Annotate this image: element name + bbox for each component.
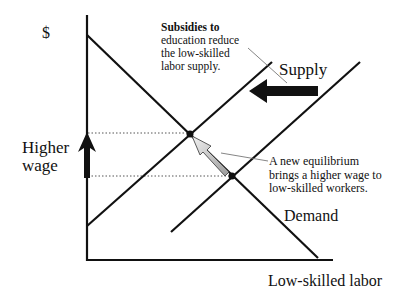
demand-label: Demand	[284, 208, 338, 224]
subsidies-note-line-1: Subsidies to	[161, 21, 239, 34]
original-equilibrium-point	[229, 173, 236, 180]
equilibrium-note-line-2: brings a higher wage to	[269, 169, 382, 183]
equilibrium-note-line-3: low-skilled workers.	[269, 182, 382, 196]
equilibrium-note: A new equilibrium brings a higher wage t…	[269, 155, 382, 196]
higher-wage-line-1: Higher	[22, 139, 69, 157]
equilibrium-leader-line	[221, 153, 268, 161]
equilibrium-note-line-1: A new equilibrium	[269, 155, 382, 169]
higher-wage-arrow-icon	[78, 132, 96, 178]
subsidies-note: Subsidies to education reduce the low-sk…	[161, 21, 239, 73]
supply-curve-new	[87, 62, 272, 226]
supply-label: Supply	[279, 61, 327, 78]
higher-wage-line-2: wage	[22, 157, 69, 175]
equilibrium-shift-arrow-icon	[192, 136, 229, 176]
subsidies-note-line-2: education reduce	[161, 34, 239, 47]
subsidies-note-line-4: labor supply.	[161, 60, 239, 73]
y-axis-label: $	[42, 25, 50, 41]
supply-demand-diagram: $ Higher wage Subsidies to education red…	[0, 0, 418, 297]
subsidies-note-line-3: the low-skilled	[161, 47, 239, 60]
supply-shift-arrow-icon	[249, 79, 318, 103]
new-equilibrium-point	[187, 131, 194, 138]
higher-wage-label: Higher wage	[22, 139, 69, 175]
x-axis-label: Low-skilled labor	[268, 273, 382, 289]
